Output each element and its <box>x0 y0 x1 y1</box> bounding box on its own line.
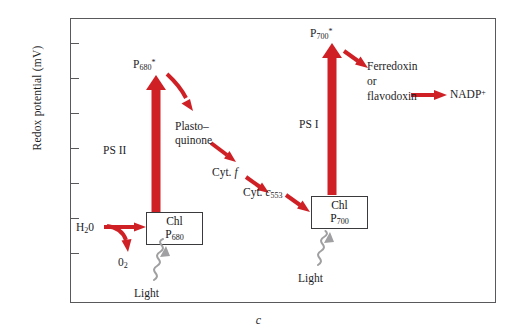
y-tick-mark <box>70 43 79 44</box>
y-tick-mark <box>70 218 79 219</box>
ferredoxin-line2: or <box>367 75 377 87</box>
y-tick-mark <box>70 148 79 149</box>
label-nadp: NADP+ <box>450 88 486 102</box>
label-plastoquinone: Plasto– quinone <box>175 119 237 147</box>
label-ps2: PS II <box>103 144 126 157</box>
y-tick-mark <box>70 113 79 114</box>
y-tick-mark <box>70 253 79 254</box>
ps1-excitation-arrow <box>322 43 342 195</box>
arrow-shaft <box>328 56 337 195</box>
label-cyt-c553: Cyt. c553 <box>243 186 283 200</box>
plastoquinone-line1: Plasto– <box>175 120 209 132</box>
label-p700-excited: P700* <box>310 27 333 41</box>
chl-p700-box: Chl P700 <box>311 196 368 229</box>
ferredoxin-line1: Ferredoxin <box>367 60 417 72</box>
y-tick-mark <box>70 183 79 184</box>
y-axis-title: Redox potential (mV) <box>31 0 43 203</box>
label-p680-excited: P680* <box>133 58 156 72</box>
label-ps1: PS I <box>299 118 319 131</box>
label-ferredoxin: Ferredoxin or flavodoxin <box>367 59 443 104</box>
label-oxygen: 02 <box>118 256 128 270</box>
arrow-shaft <box>152 88 161 212</box>
ferredoxin-line3: flavodoxin <box>367 90 417 102</box>
z-scheme-figure: Redox potential (mV) − 900 − 600 − 300 0… <box>0 0 517 335</box>
chl-box-line1: Chl <box>331 199 348 211</box>
plastoquinone-line2: quinone <box>175 134 212 146</box>
chl-box-line2: P680 <box>165 228 183 240</box>
ps2-excitation-arrow <box>146 75 166 212</box>
label-light-left: Light <box>134 287 159 300</box>
figure-caption: c <box>0 313 517 328</box>
chl-box-line2: P700 <box>330 212 348 224</box>
label-water: H20 <box>76 221 94 235</box>
chl-box-line1: Chl <box>166 215 183 227</box>
label-light-right: Light <box>298 272 323 285</box>
chl-p680-box: Chl P680 <box>146 212 203 245</box>
label-cyt-f: Cyt. f <box>212 166 238 179</box>
y-tick-mark <box>70 78 79 79</box>
